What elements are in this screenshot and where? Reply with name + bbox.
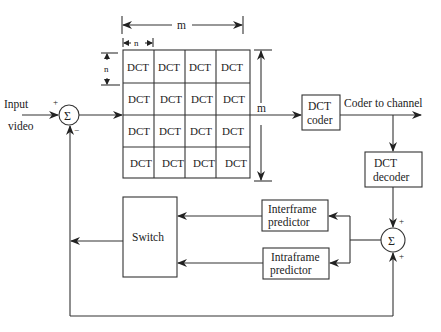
grid-cell: DCT <box>130 157 152 169</box>
grid-cell: DCT <box>191 93 213 105</box>
sigma-symbol: Σ <box>64 109 71 123</box>
dimension-cell-width-n: n <box>123 38 153 48</box>
plus-sign-bottom: + <box>399 251 404 261</box>
dim-m-height-label: m <box>257 102 266 114</box>
plus-sign: + <box>53 97 58 107</box>
video-label: video <box>8 120 34 132</box>
coder-to-channel-label: Coder to channel <box>344 97 423 109</box>
grid-cell: DCT <box>128 93 150 105</box>
sigma-symbol-2: Σ <box>388 234 395 248</box>
summing-junction-input: Σ + − <box>53 97 79 135</box>
dim-n-label: n <box>134 38 139 48</box>
dct-coder-label-1: DCT <box>308 100 331 112</box>
grid-cell: DCT <box>127 61 149 73</box>
grid-cell: DCT <box>222 125 244 137</box>
grid-cell: DCT <box>190 125 212 137</box>
intraframe-label-1: Intraframe <box>271 251 320 263</box>
dim-n-height-label: n <box>104 64 109 74</box>
dct-decoder-label-2: decoder <box>373 171 410 183</box>
grid-cell: DCT <box>189 61 211 73</box>
interframe-label-1: Interframe <box>268 203 317 215</box>
grid-cell: DCT <box>128 125 150 137</box>
grid-cell: DCT <box>162 157 184 169</box>
grid-cell: DCT <box>223 93 245 105</box>
plus-sign-top: + <box>399 216 404 226</box>
grid-cell: DCT <box>160 93 182 105</box>
grid-cell: DCT <box>221 61 243 73</box>
switch-label: Switch <box>132 231 164 243</box>
input-label: Input <box>4 98 29 111</box>
minus-sign: − <box>74 125 79 135</box>
dct-coder-block-diagram: Input video Σ + − DCT DCT DCT DCT DCT DC… <box>0 0 441 332</box>
intraframe-predictor-block: Intraframe predictor <box>263 248 329 279</box>
dct-block-grid: DCT DCT DCT DCT DCT DCT DCT DCT DCT DCT … <box>123 50 250 178</box>
interframe-predictor-block: Interframe predictor <box>262 200 328 231</box>
dimension-cell-height-n: n <box>101 53 120 85</box>
switch-block: Switch <box>123 197 177 277</box>
interframe-label-2: predictor <box>268 216 310 229</box>
intraframe-label-2: predictor <box>270 264 312 277</box>
grid-cell: DCT <box>193 157 215 169</box>
dimension-width-m: m <box>122 16 243 34</box>
grid-cell: DCT <box>225 157 247 169</box>
dct-coder-label-2: coder <box>307 114 333 126</box>
grid-cell: DCT <box>158 61 180 73</box>
dct-decoder-block: DCT decoder <box>365 152 422 187</box>
dct-coder-block: DCT coder <box>302 95 340 130</box>
input-video: Input video <box>4 98 58 132</box>
grid-cell: DCT <box>159 125 181 137</box>
dim-m-label: m <box>177 19 186 31</box>
dct-decoder-label-1: DCT <box>374 157 397 169</box>
